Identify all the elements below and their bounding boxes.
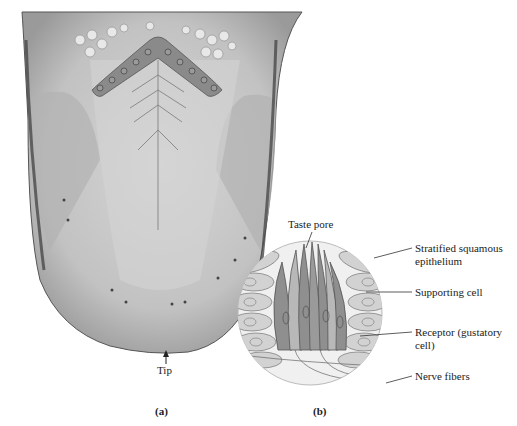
caption-a: (a) <box>155 405 168 417</box>
stratified-leader <box>374 248 412 258</box>
caption-b: (b) <box>313 405 326 417</box>
label-taste-pore: Taste pore <box>288 218 333 230</box>
label-stratified-squamous-line2: epithelium <box>415 255 462 267</box>
label-receptor-line1: Receptor (gustatory <box>415 326 502 338</box>
label-stratified-squamous-line1: Stratified squamous <box>415 242 503 254</box>
label-nerve-fibers: Nerve fibers <box>415 370 470 382</box>
nerve-fibers-leader <box>386 376 412 383</box>
label-tip: Tip <box>157 364 172 376</box>
label-receptor-line2: cell) <box>415 339 435 351</box>
taste-anatomy-figure: Tip (a) Taste pore Stratified squamous e… <box>0 0 517 426</box>
tongue-illustration <box>0 0 517 426</box>
label-supporting-cell: Supporting cell <box>415 286 483 298</box>
taste-bud-illustration <box>232 241 410 385</box>
